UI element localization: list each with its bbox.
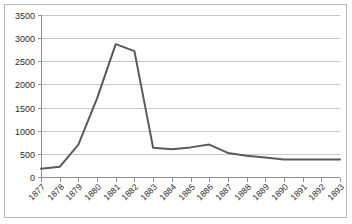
data-series-group xyxy=(41,44,340,169)
y-tick-label: 2000 xyxy=(15,80,35,90)
x-tick-label: 1887 xyxy=(213,182,234,203)
x-tick-label: 1885 xyxy=(176,182,197,203)
x-tick-label: 1883 xyxy=(138,182,159,203)
y-axis-line xyxy=(38,15,42,178)
y-tick-label: 3500 xyxy=(15,11,35,21)
y-tick-label: 2500 xyxy=(15,57,35,67)
x-tick-label: 1890 xyxy=(269,182,290,203)
x-tick-label: 1878 xyxy=(45,182,66,203)
x-tick-label: 1880 xyxy=(82,182,103,203)
y-tick-label: 0 xyxy=(30,173,35,183)
x-axis-tick-labels: 1877187818791880188118821883188418851886… xyxy=(26,182,346,203)
y-tick-label: 500 xyxy=(20,150,35,160)
chart-plot-wrapper: 0500100015002000250030003500 18771878187… xyxy=(5,5,348,219)
gridlines-group xyxy=(41,16,340,178)
y-axis-tick-labels: 0500100015002000250030003500 xyxy=(15,11,35,183)
x-tick-label: 1893 xyxy=(325,182,346,203)
x-tick-label: 1886 xyxy=(194,182,215,203)
x-tick-label: 1888 xyxy=(232,182,253,203)
series-line-1 xyxy=(41,44,340,169)
chart-outer-frame: 0500100015002000250030003500 18771878187… xyxy=(4,4,347,218)
x-tick-label: 1892 xyxy=(306,182,327,203)
y-tick-label: 1500 xyxy=(15,104,35,114)
x-tick-label: 1879 xyxy=(63,182,84,203)
x-tick-label: 1884 xyxy=(157,182,178,203)
x-tick-label: 1881 xyxy=(101,182,122,203)
y-tick-label: 3000 xyxy=(15,34,35,44)
y-tick-label: 1000 xyxy=(15,127,35,137)
x-axis-tickmarks xyxy=(42,178,341,182)
x-tick-label: 1891 xyxy=(288,182,309,203)
x-tick-label: 1889 xyxy=(250,182,271,203)
x-tick-label: 1882 xyxy=(119,182,140,203)
x-tick-label: 1877 xyxy=(26,182,47,203)
line-chart: 0500100015002000250030003500 18771878187… xyxy=(5,5,348,219)
